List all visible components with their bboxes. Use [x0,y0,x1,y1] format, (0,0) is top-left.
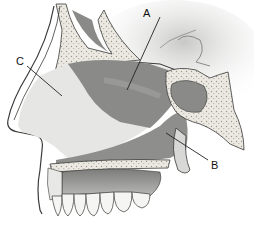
premaxilla [47,168,62,200]
label-a: A [143,8,150,19]
teeth [52,192,150,216]
diagram-artwork [0,0,254,225]
nasal-cavity-diagram: A B C [0,0,254,225]
label-b: B [211,160,218,171]
tooth [132,192,150,208]
tooth [52,196,62,216]
tooth [62,194,74,216]
tooth [100,192,114,214]
tooth [86,193,100,216]
tooth [74,194,86,216]
tooth [114,192,132,212]
label-c: C [16,56,24,67]
